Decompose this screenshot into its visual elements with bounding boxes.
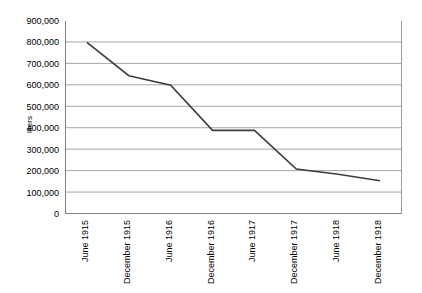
- x-axis-tick-label: June 1915: [81, 220, 90, 262]
- y-axis-tick-label: 800,000: [26, 38, 59, 47]
- gridlines: [66, 21, 401, 214]
- line-chart: liters 0100,000200,000300,000400,000500,…: [0, 0, 422, 293]
- y-axis-tick-label: 200,000: [26, 167, 59, 176]
- y-axis-tick-label: 0: [54, 210, 59, 219]
- y-axis-tick-label: 100,000: [26, 188, 59, 197]
- x-axis-tick-label: June 1917: [248, 220, 257, 262]
- x-axis-tick-label: December 1918: [374, 220, 383, 284]
- y-axis-tick-labels: 0100,000200,000300,000400,000500,000600,…: [14, 21, 62, 214]
- y-axis-tick-label: 700,000: [26, 59, 59, 68]
- plot-area: [65, 21, 402, 214]
- x-axis-tick-label: June 1916: [165, 220, 174, 262]
- x-axis-tick-label: December 1917: [290, 220, 299, 284]
- plot-svg: [66, 21, 401, 214]
- y-axis-tick-label: 300,000: [26, 145, 59, 154]
- x-axis-tick-label: December 1915: [123, 220, 132, 284]
- y-axis-tick-label: 400,000: [26, 124, 59, 133]
- x-axis-tick-label: June 1918: [332, 220, 341, 262]
- y-axis-tick-label: 900,000: [26, 17, 59, 26]
- y-axis-tick-label: 600,000: [26, 81, 59, 90]
- x-axis-tick-labels: June 1915December 1915June 1916December …: [65, 216, 400, 293]
- x-axis-tick-label: December 1916: [207, 220, 216, 284]
- y-axis-tick-label: 500,000: [26, 102, 59, 111]
- y-axis-title: liters: [0, 95, 14, 155]
